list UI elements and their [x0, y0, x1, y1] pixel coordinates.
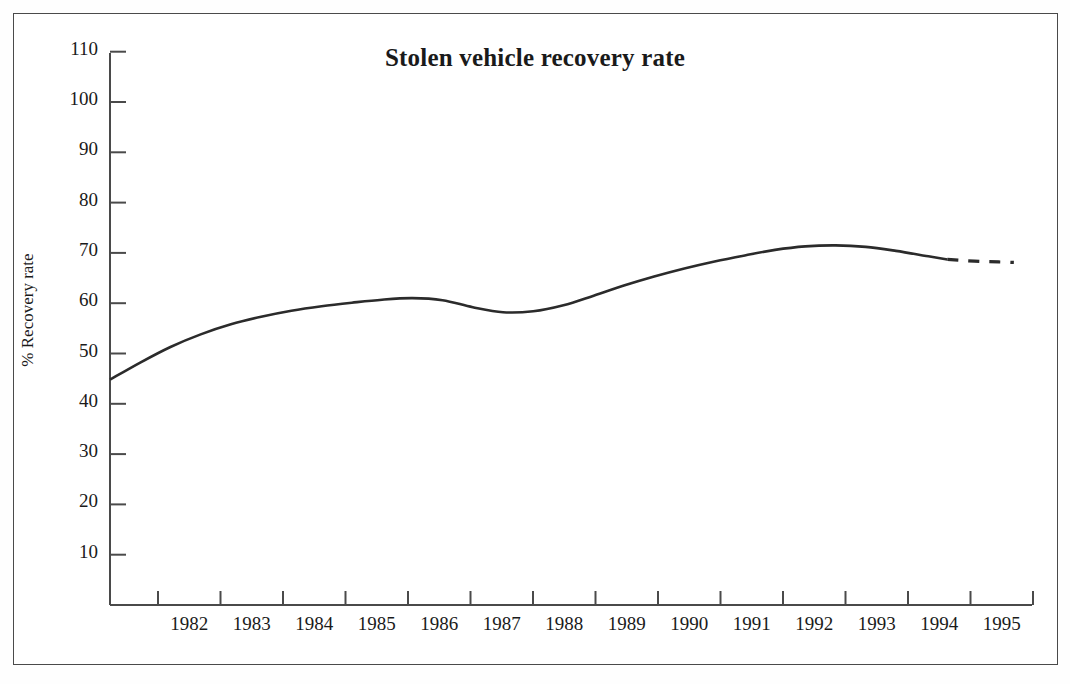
- x-axis-tick-label: 1985: [342, 613, 412, 635]
- x-axis-tick-label: 1988: [529, 613, 599, 635]
- x-axis-tick-label: 1994: [904, 613, 974, 635]
- x-axis-tick-label: 1991: [717, 613, 787, 635]
- x-axis-tick-label: 1984: [279, 613, 349, 635]
- x-axis-tick-label: 1982: [154, 613, 224, 635]
- chart-page: Stolen vehicle recovery rate % Recovery …: [0, 0, 1070, 684]
- y-axis-tick-label: 60: [52, 289, 98, 311]
- y-axis-tick-label: 90: [52, 138, 98, 160]
- y-axis-tick-label: 10: [52, 541, 98, 563]
- series-line-observed: [110, 245, 947, 379]
- y-axis-tick-label: 20: [52, 490, 98, 512]
- chart-svg: [0, 0, 1070, 684]
- y-axis-tick-label: 100: [52, 88, 98, 110]
- x-axis-tick-label: 1993: [842, 613, 912, 635]
- x-axis-tick-label: 1995: [967, 613, 1037, 635]
- y-axis-tick-label: 30: [52, 440, 98, 462]
- x-axis-tick-label: 1989: [592, 613, 662, 635]
- y-axis-tick-label: 110: [52, 38, 98, 60]
- series-line-projected: [947, 259, 1014, 262]
- y-axis-tick-label: 40: [52, 390, 98, 412]
- x-axis-tick-label: 1990: [654, 613, 724, 635]
- y-axis-tick-label: 50: [52, 340, 98, 362]
- plot-area: % Recovery rate 102030405060708090100110…: [0, 0, 1070, 684]
- y-axis-tick-label: 80: [52, 189, 98, 211]
- x-axis-tick-label: 1986: [404, 613, 474, 635]
- x-axis-tick-label: 1987: [467, 613, 537, 635]
- x-axis-tick-label: 1983: [217, 613, 287, 635]
- y-axis-tick-label: 70: [52, 239, 98, 261]
- x-axis-tick-label: 1992: [779, 613, 849, 635]
